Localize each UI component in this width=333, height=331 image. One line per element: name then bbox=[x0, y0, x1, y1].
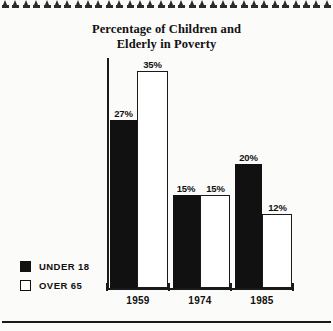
bar-value-over65-1959: 35% bbox=[137, 59, 168, 70]
legend-item-under-18[interactable]: UNDER 18 bbox=[20, 257, 110, 276]
bar-over65-1959[interactable] bbox=[137, 71, 168, 288]
bar-over65-1985[interactable] bbox=[262, 214, 292, 288]
y-axis-line bbox=[107, 58, 109, 288]
bar-value-over65-1985: 12% bbox=[262, 202, 293, 213]
x-axis-label-1985: 1985 bbox=[232, 295, 292, 306]
bar-value-over65-1974: 15% bbox=[200, 183, 231, 194]
legend-swatch-outlined-square-icon bbox=[20, 280, 31, 291]
bar-under18-1959[interactable] bbox=[110, 120, 137, 288]
legend-item-over-65[interactable]: OVER 65 bbox=[20, 276, 110, 295]
chart-legend: UNDER 18 OVER 65 bbox=[20, 257, 110, 295]
legend-label-over-65: OVER 65 bbox=[39, 280, 82, 291]
scanned-page: Percentage of Children and Elderly in Po… bbox=[0, 0, 333, 331]
x-axis-tick bbox=[168, 283, 170, 291]
legend-label-under-18: UNDER 18 bbox=[39, 261, 90, 272]
x-axis-label-1959: 1959 bbox=[108, 295, 168, 306]
x-axis-line bbox=[106, 288, 294, 290]
x-axis-tick bbox=[230, 283, 232, 291]
legend-swatch-filled-square-icon bbox=[20, 261, 31, 272]
bar-value-under18-1985: 20% bbox=[233, 152, 264, 163]
bar-value-under18-1959: 27% bbox=[108, 108, 139, 119]
bar-under18-1974[interactable] bbox=[173, 195, 200, 288]
bar-over65-1974[interactable] bbox=[200, 195, 230, 288]
bar-under18-1985[interactable] bbox=[235, 164, 262, 288]
x-axis-label-1974: 1974 bbox=[170, 295, 230, 306]
x-axis-tick bbox=[292, 283, 294, 291]
bar-value-under18-1974: 15% bbox=[170, 183, 202, 194]
page-bottom-rule bbox=[2, 321, 331, 323]
